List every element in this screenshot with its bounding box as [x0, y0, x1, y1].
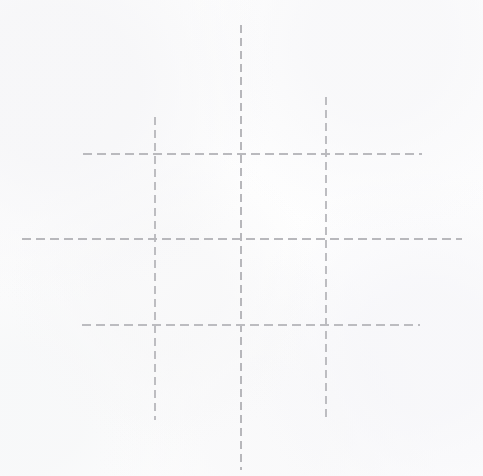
grid-canvas — [0, 0, 483, 476]
cell-top-center[interactable] — [155, 69, 241, 154]
cell-top-left[interactable] — [69, 69, 155, 154]
cell-middle-center[interactable] — [155, 154, 241, 239]
cell-bottom-left[interactable] — [69, 239, 155, 325]
cell-middle-right[interactable] — [241, 154, 326, 239]
cell-middle-left[interactable] — [69, 154, 155, 239]
cell-bottom-right[interactable] — [241, 239, 326, 325]
cell-bottom-center[interactable] — [155, 239, 241, 325]
cell-top-right[interactable] — [241, 69, 326, 154]
